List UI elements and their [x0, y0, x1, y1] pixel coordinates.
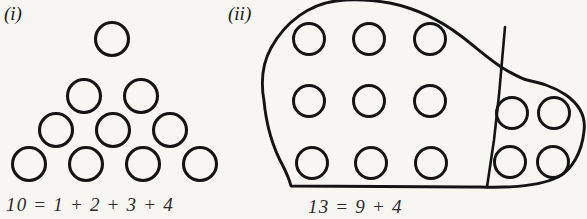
figure-container: (i) 10 = 1 + 2 + 3 + 4 (ii)	[0, 0, 587, 219]
panel-ii-equation: 13 = 9 + 4	[308, 196, 403, 217]
panel-i-label: (i)	[4, 3, 22, 25]
figure-svg: (i) 10 = 1 + 2 + 3 + 4 (ii)	[0, 0, 587, 219]
panel-i-equation: 10 = 1 + 2 + 3 + 4	[6, 194, 174, 215]
panel-ii-label: (ii)	[228, 3, 251, 25]
